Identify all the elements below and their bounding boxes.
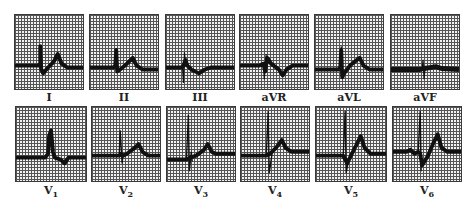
ecg-trace: [167, 107, 235, 181]
ecg-trace: [90, 15, 158, 89]
ecg-panel-lead-V3: [166, 106, 236, 182]
lead-label-aVL: aVL: [314, 91, 384, 104]
ecg-trace: [315, 15, 383, 89]
lead-label-aVF: aVF: [390, 91, 460, 104]
ecg-trace: [16, 107, 86, 181]
ecg-trace: [391, 15, 459, 89]
ecg-panel-lead-aVF: [390, 14, 460, 90]
ecg-trace: [241, 107, 309, 181]
ecg-trace: [92, 107, 160, 181]
ecg-trace: [15, 15, 83, 89]
lead-label-V1: V1: [16, 184, 86, 199]
ecg-panel-lead-aVR: [239, 14, 309, 90]
ecg-panel-lead-V2: [91, 106, 161, 182]
ecg-trace: [316, 107, 386, 181]
ecg-trace: [166, 15, 234, 89]
ecg-panel-lead-V4: [240, 106, 310, 182]
ecg-panel-lead-V5: [315, 106, 387, 182]
ecg-trace: [393, 107, 461, 181]
lead-label-V3: V3: [166, 184, 236, 199]
lead-label-V4: V4: [240, 184, 310, 199]
ecg-panel-lead-aVL: [314, 14, 384, 90]
ecg-panel-lead-I: [14, 14, 84, 90]
ecg-panel-lead-III: [165, 14, 235, 90]
lead-label-II: II: [89, 91, 159, 104]
ecg-panel-lead-II: [89, 14, 159, 90]
lead-label-I: I: [14, 91, 84, 104]
lead-label-III: III: [165, 91, 235, 104]
ecg-panel-lead-V6: [392, 106, 462, 182]
lead-label-V6: V6: [392, 184, 462, 199]
lead-label-V5: V5: [316, 184, 386, 199]
ecg-panel-lead-V1: [15, 106, 87, 182]
lead-label-V2: V2: [91, 184, 161, 199]
lead-label-aVR: aVR: [239, 91, 309, 104]
ecg-trace: [240, 15, 308, 89]
